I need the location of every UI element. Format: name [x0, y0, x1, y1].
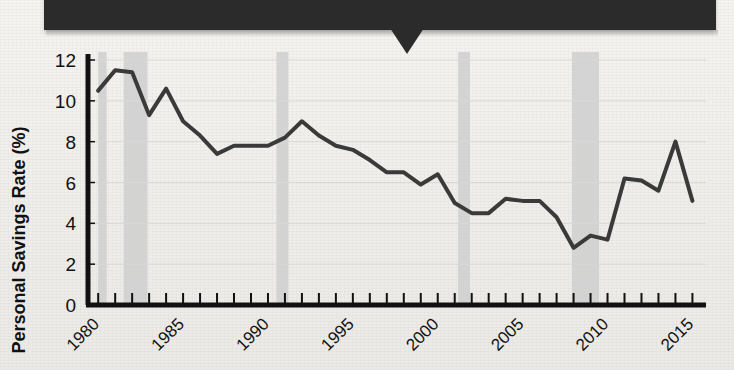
axes-group: [86, 54, 706, 305]
x-tick-label: 1980: [63, 314, 103, 354]
recession-band: [458, 52, 470, 305]
y-tick-labels-group: 024681012: [55, 50, 77, 316]
savings-rate-line: [98, 70, 692, 248]
gridlines-group: [88, 60, 706, 264]
y-tick-label: 4: [65, 213, 76, 234]
callout-banner: [44, 0, 716, 30]
y-tick-label: 2: [65, 254, 76, 275]
savings-rate-chart: 024681012 198019851990199520002005201020…: [0, 40, 734, 370]
y-tick-label: 8: [65, 132, 76, 153]
y-tick-label: 6: [65, 173, 76, 194]
recession-band: [276, 52, 288, 305]
x-tick-labels-group: 19801985199019952000200520102015: [63, 314, 697, 354]
banner-drop-shadow: [46, 30, 718, 37]
x-tick-label: 1990: [233, 314, 273, 354]
x-tick-label: 2000: [402, 314, 442, 354]
recession-band: [124, 52, 148, 305]
x-tick-label: 1995: [318, 314, 358, 354]
recession-bands-group: [98, 52, 599, 305]
y-tick-label: 12: [55, 50, 76, 71]
x-tick-label: 2005: [487, 314, 527, 354]
y-axis-title: Personal Savings Rate (%): [9, 126, 29, 353]
chart-svg: 024681012 198019851990199520002005201020…: [0, 40, 734, 370]
y-tick-label: 10: [55, 91, 76, 112]
x-tick-label: 2015: [657, 314, 697, 354]
y-tick-label: 0: [65, 295, 76, 316]
x-tick-label: 1985: [148, 314, 188, 354]
recession-band: [572, 52, 599, 305]
x-tick-label: 2010: [572, 314, 612, 354]
data-line-group: [98, 70, 692, 248]
